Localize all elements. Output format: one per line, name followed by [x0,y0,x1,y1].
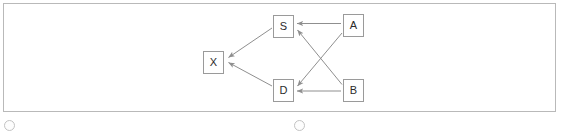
radio-option-right[interactable] [294,118,309,132]
edge-d-to-x [229,63,273,87]
screenshot-root: S A X D B [0,0,561,132]
graph-panel: S A X D B [3,3,556,112]
graph-node-s-label: S [280,21,287,32]
graph-node-a-label: A [350,20,357,31]
bottom-controls [0,118,561,132]
edge-a-to-d [298,33,343,86]
graph-node-s[interactable]: S [273,15,294,38]
radio-button-icon[interactable] [4,120,15,131]
graph-node-d[interactable]: D [273,79,294,102]
graph-node-x[interactable]: X [203,51,224,74]
graph-node-b-label: B [350,85,357,96]
edge-s-to-x [229,28,273,58]
graph-node-d-label: D [280,85,288,96]
radio-button-icon[interactable] [294,120,305,131]
graph-node-a[interactable]: A [343,14,364,37]
graph-node-b[interactable]: B [343,79,364,102]
edge-b-to-s [298,30,343,85]
graph-node-x-label: X [210,57,217,68]
radio-option-left[interactable] [4,118,19,132]
